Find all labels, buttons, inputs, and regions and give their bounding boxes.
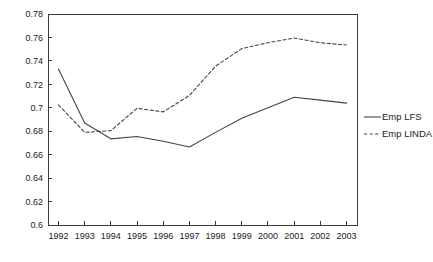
x-tick-label: 1996 bbox=[153, 231, 173, 241]
x-tick-label: 1994 bbox=[101, 231, 121, 241]
y-tick-label: 0.68 bbox=[25, 126, 43, 136]
x-tick-label: 2003 bbox=[337, 231, 357, 241]
x-tick-label: 1995 bbox=[127, 231, 147, 241]
chart-svg: 0.60.620.640.660.680.70.720.740.760.78 1… bbox=[0, 0, 433, 262]
line-chart: 0.60.620.640.660.680.70.720.740.760.78 1… bbox=[0, 0, 433, 262]
y-tick-label: 0.64 bbox=[25, 173, 43, 183]
y-tick-label: 0.62 bbox=[25, 197, 43, 207]
legend-label-emp-linda: Emp LINDA bbox=[382, 128, 433, 139]
chart-legend: Emp LFSEmp LINDA bbox=[364, 111, 433, 139]
chart-canvas: 0.60.620.640.660.680.70.720.740.760.78 1… bbox=[0, 0, 433, 262]
x-tick-label: 1998 bbox=[206, 231, 226, 241]
plot-axes bbox=[48, 14, 357, 225]
y-tick-label: 0.78 bbox=[25, 9, 43, 19]
plot-border bbox=[48, 14, 357, 225]
x-tick-label: 2001 bbox=[284, 231, 304, 241]
x-axis-ticks: 1992199319941995199619971998199920002001… bbox=[48, 221, 356, 241]
y-tick-label: 0.66 bbox=[25, 150, 43, 160]
y-tick-label: 0.7 bbox=[30, 103, 43, 113]
x-tick-label: 1992 bbox=[48, 231, 68, 241]
x-tick-label: 1993 bbox=[75, 231, 95, 241]
x-tick-label: 1999 bbox=[232, 231, 252, 241]
x-tick-label: 1997 bbox=[179, 231, 199, 241]
y-tick-label: 0.76 bbox=[25, 33, 43, 43]
y-tick-label: 0.72 bbox=[25, 80, 43, 90]
x-tick-label: 2002 bbox=[310, 231, 330, 241]
data-series-group bbox=[58, 38, 346, 147]
series-line-emp-linda bbox=[58, 38, 346, 132]
x-tick-label: 2000 bbox=[258, 231, 278, 241]
legend-label-emp-lfs: Emp LFS bbox=[382, 111, 422, 122]
y-tick-label: 0.74 bbox=[25, 56, 43, 66]
y-tick-label: 0.6 bbox=[30, 220, 43, 230]
